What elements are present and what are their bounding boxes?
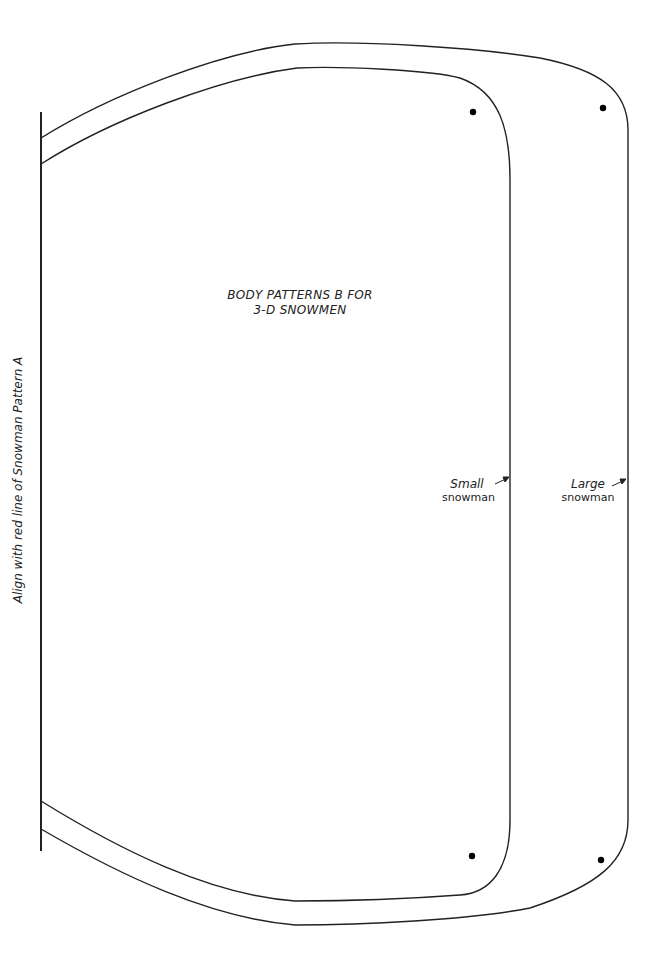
small-snowman-label: Small snowman <box>442 477 492 505</box>
small-label-line-1: Small <box>442 477 492 491</box>
title-line-1: BODY PATTERNS B FOR <box>190 288 410 303</box>
large-snowman-label: Large snowman <box>560 477 616 505</box>
large-label-line-1: Large <box>560 477 616 491</box>
large-snowman-outline <box>41 43 628 925</box>
small-snowman-outline <box>41 67 510 901</box>
dot-small-top <box>470 109 476 115</box>
alignment-instruction: Align with red line of Snowman Pattern A <box>11 357 25 604</box>
dot-large-top <box>600 105 606 111</box>
dot-small-bottom <box>469 853 475 859</box>
small-label-line-2: snowman <box>442 491 492 505</box>
title-line-2: 3-D SNOWMEN <box>190 303 410 318</box>
page-title: BODY PATTERNS B FOR 3-D SNOWMEN <box>190 288 410 318</box>
large-label-line-2: snowman <box>560 491 616 505</box>
dot-large-bottom <box>598 857 604 863</box>
arrow-icon-small <box>495 477 509 484</box>
